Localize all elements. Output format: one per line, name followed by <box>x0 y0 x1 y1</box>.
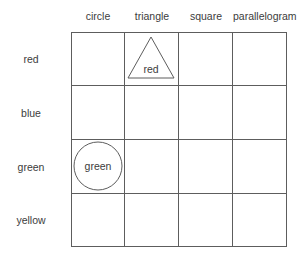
grid-horizontal-line-4 <box>71 246 287 247</box>
column-header-square-label: square <box>190 8 222 24</box>
cell-red-triangle-label: red <box>124 63 178 75</box>
column-header-triangle-label: triangle <box>135 8 169 24</box>
cell-red-triangle[interactable]: red <box>124 32 178 86</box>
cell-green-circle-label: green <box>71 160 125 172</box>
row-label-yellow: yellow <box>0 212 62 228</box>
cell-green-circle[interactable]: green <box>71 139 125 193</box>
column-header-parallelogram: parallelogram <box>233 8 287 24</box>
column-header-circle: circle <box>71 8 125 24</box>
row-label-green: green <box>0 159 62 175</box>
column-header-row: circle triangle square parallelogram <box>71 8 287 26</box>
column-header-triangle: triangle <box>125 8 179 24</box>
row-label-blue: blue <box>0 105 62 121</box>
column-header-square: square <box>179 8 233 24</box>
grid-table: red green <box>71 32 287 247</box>
column-header-circle-label: circle <box>86 8 111 24</box>
grid-horizontal-line-1 <box>71 85 287 86</box>
diagram-canvas: circle triangle square parallelogram red… <box>0 0 303 265</box>
grid-horizontal-line-3 <box>71 193 287 194</box>
row-label-column: red blue green yellow <box>0 32 66 247</box>
column-header-parallelogram-label: parallelogram <box>233 8 297 24</box>
triangle-icon <box>124 32 178 86</box>
grid-horizontal-line-0 <box>71 32 287 33</box>
row-label-red: red <box>0 51 62 67</box>
